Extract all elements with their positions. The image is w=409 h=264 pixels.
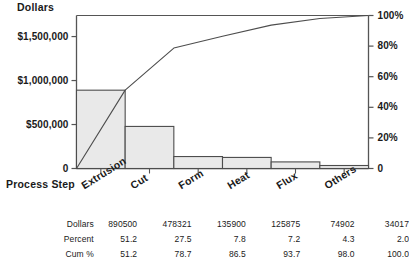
pareto-chart: Dollars Process Step 0$500,000$1,000,000… — [0, 0, 409, 264]
bar-Flux — [271, 162, 320, 169]
secondary-y-tick-label: 80% — [378, 40, 398, 51]
table-cell: 125875 — [246, 216, 300, 231]
table-row: Percent51.227.57.87.24.32.0 — [0, 231, 409, 246]
table-cell: 78.7 — [137, 246, 191, 261]
table-cell: 27.5 — [137, 231, 191, 246]
table-cell: 86.5 — [192, 246, 246, 261]
y-tick-label: $1,500,000 — [17, 31, 68, 42]
bar-Heat — [223, 157, 272, 168]
table-cell: 2.0 — [355, 231, 409, 246]
table-row: Dollars890500478321135900125875749023401… — [0, 216, 409, 231]
table-cell: 51.2 — [94, 231, 137, 246]
secondary-y-tick-label: 0 — [378, 163, 384, 174]
y-tick-label: $500,000 — [26, 119, 69, 130]
table-cell: 74902 — [300, 216, 354, 231]
table-cell: 100.0 — [355, 246, 409, 261]
table-row-label: Percent — [0, 231, 94, 246]
secondary-y-tick-label: 100% — [378, 10, 404, 21]
pareto-data-table: Dollars890500478321135900125875749023401… — [0, 216, 409, 261]
table-cell: 34017 — [355, 216, 409, 231]
table-row: Cum %51.278.786.593.798.0100.0 — [0, 246, 409, 261]
table-cell: 98.0 — [300, 246, 354, 261]
table-cell: 7.2 — [246, 231, 300, 246]
table-cell: 478321 — [137, 216, 191, 231]
table-cell: 890500 — [94, 216, 137, 231]
table-cell: 7.8 — [192, 231, 246, 246]
table-row-label: Cum % — [0, 246, 94, 261]
secondary-y-tick-label: 40% — [378, 101, 398, 112]
y-tick-label: $1,000,000 — [17, 75, 68, 86]
table-cell: 51.2 — [94, 246, 137, 261]
table-cell: 93.7 — [246, 246, 300, 261]
bar-Cut — [125, 126, 174, 168]
table-row-label: Dollars — [0, 216, 94, 231]
y-tick-label: 0 — [63, 163, 69, 174]
table-cell: 4.3 — [300, 231, 354, 246]
table-cell: 135900 — [192, 216, 246, 231]
secondary-y-tick-label: 60% — [378, 71, 398, 82]
secondary-y-tick-label: 20% — [378, 132, 398, 143]
